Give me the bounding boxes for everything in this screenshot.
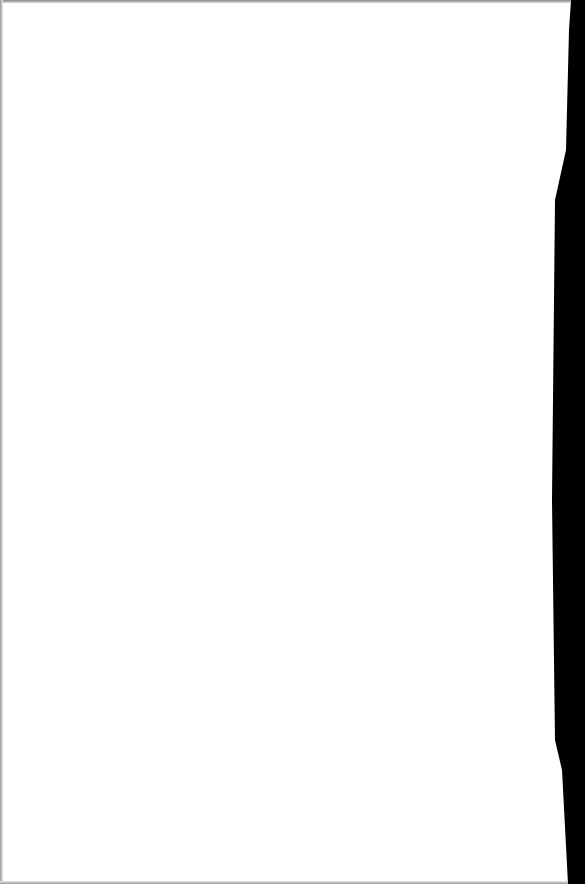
paper-top-edge — [0, 0, 585, 3]
paper-left-edge — [0, 0, 3, 884]
blank-paper-sheet — [0, 0, 585, 884]
scan-scene — [0, 0, 585, 884]
